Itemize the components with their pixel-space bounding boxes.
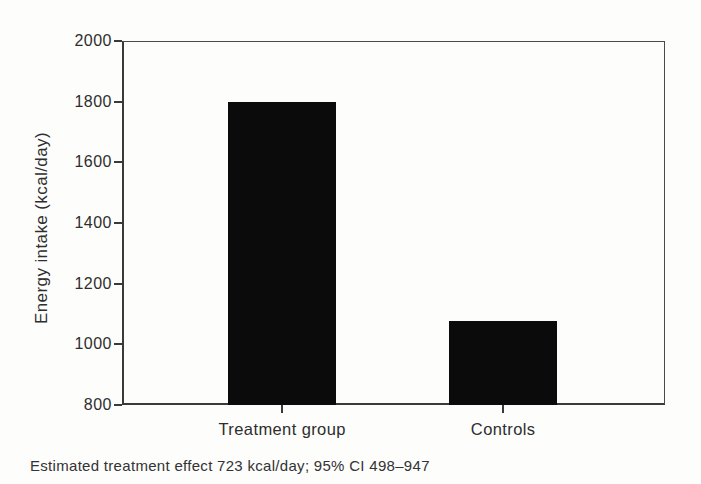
y-tick-label: 800: [52, 395, 112, 415]
bar-controls: [449, 321, 557, 405]
y-axis-title: Energy intake (kcal/day): [32, 132, 52, 324]
y-tick-label: 1400: [52, 213, 112, 233]
bar-treatment-group: [228, 102, 336, 405]
treatment-effect-caption: Estimated treatment effect 723 kcal/day;…: [30, 457, 430, 474]
plot-area: [122, 41, 665, 405]
x-tick-label: Treatment group: [172, 420, 392, 439]
x-tick-label: Controls: [393, 420, 613, 439]
x-tick-mark: [502, 405, 504, 413]
y-tick-mark: [114, 404, 122, 406]
x-tick-mark: [281, 405, 283, 413]
y-tick-label: 1800: [52, 92, 112, 112]
y-tick-mark: [114, 161, 122, 163]
y-tick-mark: [114, 40, 122, 42]
energy-intake-bar-chart: Energy intake (kcal/day) 800100012001400…: [0, 0, 701, 484]
y-tick-label: 1200: [52, 274, 112, 294]
y-tick-mark: [114, 101, 122, 103]
y-tick-label: 2000: [52, 31, 112, 51]
y-tick-mark: [114, 222, 122, 224]
y-tick-label: 1000: [52, 334, 112, 354]
y-tick-label: 1600: [52, 152, 112, 172]
y-tick-mark: [114, 283, 122, 285]
y-tick-mark: [114, 343, 122, 345]
